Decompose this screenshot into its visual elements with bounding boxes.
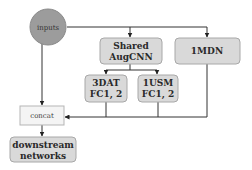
node-mdn: 1MDN <box>175 38 240 64</box>
edge-inputs-to-mdn <box>67 27 207 37</box>
inputs-label: inputs <box>37 24 60 32</box>
downstream-label-2: networks <box>20 151 66 161</box>
edge-augcnn-to-dat <box>106 70 130 74</box>
mdn-label: 1MDN <box>191 46 223 56</box>
node-downstream-networks: downstream networks <box>10 137 76 162</box>
usm-label-1: 1USM <box>143 78 174 88</box>
node-concat: concat <box>20 106 64 125</box>
node-inputs: inputs <box>30 9 66 45</box>
dat-label-1: 3DAT <box>92 78 120 88</box>
concat-label: concat <box>30 112 54 120</box>
node-shared-augcnn: Shared AugCNN <box>100 38 162 64</box>
architecture-diagram: inputs Shared AugCNN 1MDN 3DAT FC1, 2 1U… <box>0 0 252 170</box>
node-dat: 3DAT FC1, 2 <box>85 75 127 102</box>
shared-augcnn-label-1: Shared <box>113 41 149 51</box>
node-usm: 1USM FC1, 2 <box>138 75 178 102</box>
dat-label-2: FC1, 2 <box>90 89 122 100</box>
downstream-label-1: downstream <box>12 140 74 150</box>
shared-augcnn-label-2: AugCNN <box>108 52 152 62</box>
edge-augcnn-split <box>130 64 157 74</box>
usm-label-2: FC1, 2 <box>142 89 174 100</box>
